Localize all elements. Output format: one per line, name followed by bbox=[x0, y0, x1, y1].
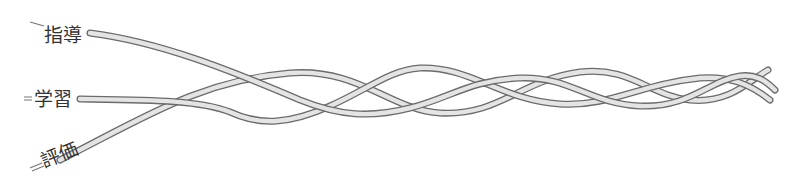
lead-line-gakushu bbox=[24, 97, 32, 100]
lead-line-shido bbox=[30, 22, 44, 26]
label-shido: 指導 bbox=[44, 24, 82, 46]
label-gakushu: 学習 bbox=[34, 88, 72, 110]
braid-diagram: 指導 学習 評価 bbox=[0, 0, 791, 191]
label-hyoka: 評価 bbox=[37, 137, 80, 172]
